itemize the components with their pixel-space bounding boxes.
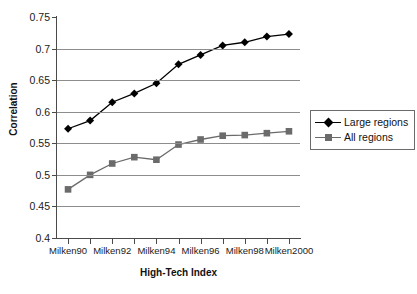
series-layer xyxy=(57,17,300,238)
x-axis-tick xyxy=(289,239,290,244)
x-axis-tick-label: Milken98 xyxy=(226,246,264,256)
plot-area xyxy=(57,17,300,238)
y-axis-tick-label: 0.55 xyxy=(4,138,50,149)
y-axis-tick-labels: 0.750.70.650.60.550.50.450.4 xyxy=(0,0,50,294)
legend-item[interactable]: Large regions xyxy=(315,115,408,130)
chart-legend: Large regionsAll regions xyxy=(310,110,415,150)
x-axis-tick xyxy=(201,239,202,244)
data-point xyxy=(131,154,138,161)
data-point xyxy=(241,132,248,139)
x-axis-tick-label: Milken2000 xyxy=(265,246,314,256)
x-axis-tick xyxy=(68,239,69,244)
gridline xyxy=(57,80,300,81)
data-point xyxy=(64,125,72,133)
x-axis-tick-label: Milken94 xyxy=(137,246,175,256)
series-1 xyxy=(64,30,293,133)
series-line xyxy=(68,131,289,189)
data-point xyxy=(153,156,160,163)
data-point xyxy=(263,33,271,41)
y-axis-tick xyxy=(52,206,57,207)
x-axis-tick-label: Milken92 xyxy=(93,246,131,256)
y-axis-tick xyxy=(52,143,57,144)
data-point xyxy=(219,132,226,139)
y-axis-tick-label: 0.65 xyxy=(4,75,50,86)
gridline xyxy=(57,49,300,50)
x-axis-tick xyxy=(112,239,113,244)
square-marker-icon xyxy=(315,132,341,143)
legend-item-label: All regions xyxy=(344,132,393,143)
y-axis-tick xyxy=(52,175,57,176)
gridline xyxy=(57,143,300,144)
data-point xyxy=(65,186,72,193)
x-axis-tick-label: Milken96 xyxy=(182,246,220,256)
y-axis-tick-label: 0.4 xyxy=(4,233,50,244)
series-2 xyxy=(65,128,293,193)
data-point xyxy=(175,141,182,148)
x-axis-tick-label: Milken90 xyxy=(49,246,87,256)
y-axis-tick xyxy=(52,17,57,18)
y-axis-tick xyxy=(52,80,57,81)
data-point xyxy=(130,89,138,97)
y-axis-tick-label: 0.5 xyxy=(4,170,50,181)
y-axis-tick-label: 0.75 xyxy=(4,12,50,23)
x-axis-tick xyxy=(245,239,246,244)
y-axis-tick xyxy=(52,49,57,50)
x-axis-tick xyxy=(267,239,268,244)
x-axis-tick xyxy=(90,239,91,244)
x-axis-tick xyxy=(223,239,224,244)
x-axis-title: High-Tech Index xyxy=(57,268,300,278)
gridline xyxy=(57,175,300,176)
y-axis-tick-label: 0.45 xyxy=(4,201,50,212)
gridline xyxy=(57,206,300,207)
chart-figure: Correlation 0.750.70.650.60.550.50.450.4… xyxy=(0,0,417,294)
data-point xyxy=(286,128,293,135)
gridline xyxy=(57,112,300,113)
y-axis-tick xyxy=(52,238,57,239)
data-point xyxy=(197,136,204,143)
y-axis-tick-label: 0.6 xyxy=(4,107,50,118)
x-axis-tick xyxy=(156,239,157,244)
legend-item[interactable]: All regions xyxy=(315,130,408,145)
data-point xyxy=(241,38,249,46)
y-axis-tick-label: 0.7 xyxy=(4,44,50,55)
data-point xyxy=(109,160,116,167)
legend-item-label: Large regions xyxy=(344,117,408,128)
x-axis-tick xyxy=(134,239,135,244)
data-point xyxy=(285,30,293,38)
data-point xyxy=(264,130,271,137)
y-axis-tick xyxy=(52,112,57,113)
diamond-marker-icon xyxy=(315,117,341,128)
x-axis-tick xyxy=(179,239,180,244)
data-point xyxy=(197,51,205,59)
